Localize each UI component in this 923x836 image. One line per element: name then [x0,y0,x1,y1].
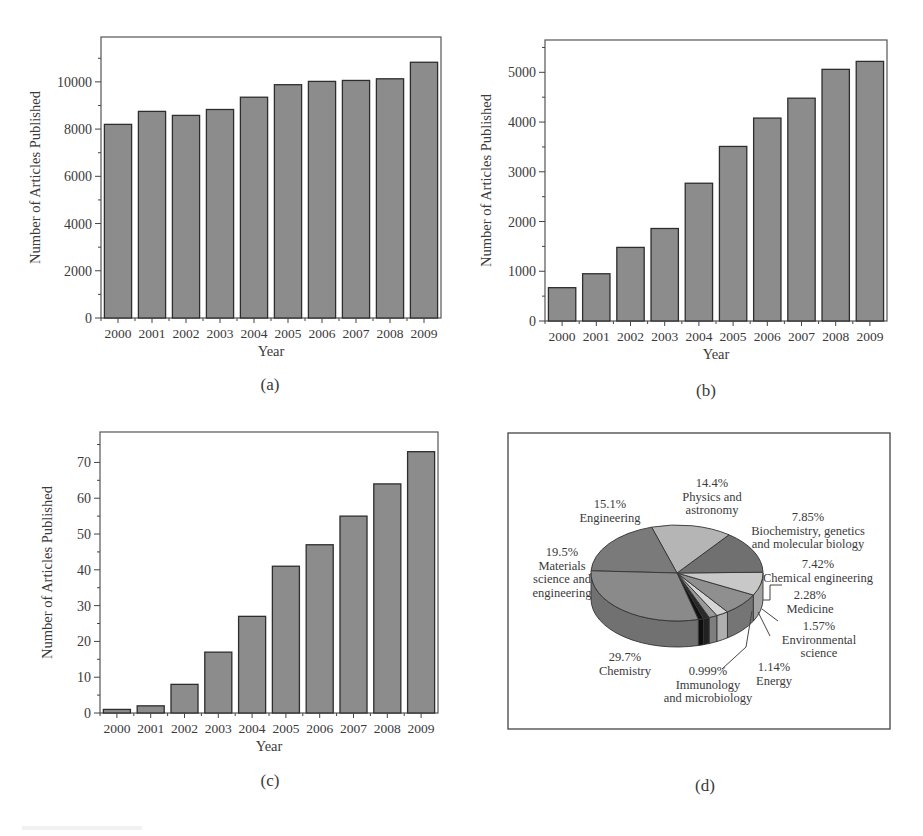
pie-side [704,617,710,644]
x-tick-label: 2001 [583,329,610,344]
y-tick-label: 5000 [508,65,536,80]
bar-2007 [342,80,369,318]
chart-b: 2000200120022003200420052006200720082009… [460,0,923,410]
x-tick-label: 2001 [139,326,166,341]
x-tick-label: 2005 [275,326,302,341]
y-tick-label: 0 [84,706,91,721]
bar-2005 [272,566,299,713]
pie-annotation: 19.5%Materialsscience andengineering [532,545,592,600]
bar-2002 [171,684,198,713]
caption-c: (c) [250,771,290,791]
x-tick-label: 2004 [241,326,268,341]
bar-2003 [205,652,232,713]
leader-line [762,609,778,621]
pie-annotation: 7.85%Biochemistry, geneticsand molecular… [751,510,865,551]
y-tick-label: 20 [77,634,91,649]
bar-2006 [754,118,781,321]
chart-c: 2000200120022003200420052006200720082009… [0,410,460,790]
bar-2001 [137,706,164,713]
figure-caption-cutoff [22,826,142,830]
x-tick-label: 2004 [239,721,266,736]
bar-2001 [583,274,610,321]
x-tick-label: 2003 [207,326,234,341]
y-tick-label: 4000 [64,217,92,232]
x-tick-label: 2008 [374,721,401,736]
bar-chart-b: 2000200120022003200420052006200720082009… [460,0,923,410]
bar-2004 [239,616,266,713]
bar-2008 [822,69,849,321]
bar-2003 [651,228,678,321]
chart-d: 15.1%Engineering14.4%Physics andastronom… [500,425,900,745]
x-tick-label: 2007 [340,721,367,736]
bar-2000 [103,709,130,713]
x-tick-label: 2003 [651,329,678,344]
y-tick-label: 30 [77,599,91,614]
caption-a: (a) [250,375,290,395]
x-tick-label: 2008 [377,326,404,341]
y-tick-label: 50 [77,527,91,542]
pie-annotation: 1.14%Energy [756,660,793,688]
bar-2009 [410,62,437,318]
bar-2006 [308,81,335,318]
x-axis-label: Year [256,738,283,754]
bar-2009 [408,452,435,713]
pie-annotation: 7.42%Chemical engineering [763,557,874,585]
bar-2007 [788,98,815,321]
x-tick-label: 2006 [754,329,781,344]
pie-annotation: 0.999%Immunologyand microbiology [664,664,753,705]
x-tick-label: 2000 [549,329,576,344]
bar-2009 [856,61,883,321]
y-tick-label: 0 [85,311,92,326]
x-tick-label: 2007 [788,329,815,344]
bar-2004 [685,183,712,321]
x-tick-label: 2006 [306,721,333,736]
y-tick-label: 4000 [508,115,536,130]
x-tick-label: 2005 [720,329,747,344]
bar-2002 [617,247,644,321]
pie-chart-d: 15.1%Engineering14.4%Physics andastronom… [500,425,900,745]
bar-2002 [172,115,199,318]
x-tick-label: 2009 [408,721,435,736]
bar-chart-a: 2000200120022003200420052006200720082009… [0,0,460,410]
y-tick-label: 10 [77,670,91,685]
y-axis-label: Number of Articles Published [27,90,43,264]
pie-annotation: 29.7%Chemistry [599,650,652,678]
y-tick-label: 6000 [64,169,92,184]
y-tick-label: 8000 [64,122,92,137]
x-tick-label: 2009 [856,329,883,344]
x-axis-label: Year [703,346,730,362]
leader-line [758,612,770,636]
x-tick-label: 2002 [173,326,200,341]
pie-side [709,615,717,643]
bar-2006 [306,545,333,713]
pie-side [698,619,703,646]
x-tick-label: 2009 [411,326,438,341]
x-tick-label: 2005 [272,721,299,736]
caption-b: (b) [686,381,726,401]
bar-2008 [376,79,403,318]
x-tick-label: 2002 [617,329,644,344]
y-tick-label: 0 [529,314,536,329]
y-tick-label: 1000 [508,264,536,279]
y-axis-label: Number of Articles Published [39,485,55,659]
y-tick-label: 2000 [64,264,92,279]
bar-2008 [374,484,401,713]
x-tick-label: 2004 [685,329,712,344]
chart-a: 2000200120022003200420052006200720082009… [0,0,460,410]
y-tick-label: 70 [77,455,91,470]
bar-2000 [104,124,131,318]
y-tick-label: 10000 [57,75,92,90]
x-tick-label: 2000 [103,721,130,736]
pie-annotation: 14.4%Physics andastronomy [682,476,742,517]
x-tick-label: 2007 [343,326,370,341]
y-tick-label: 3000 [508,165,536,180]
bar-chart-c: 2000200120022003200420052006200720082009… [0,410,460,790]
bar-2000 [548,288,575,321]
pie-annotation: 1.57%Environmentalscience [782,619,857,660]
bar-2007 [340,516,367,713]
x-tick-label: 2000 [105,326,132,341]
x-axis-label: Year [258,343,285,359]
y-tick-label: 40 [77,563,91,578]
y-axis-label: Number of Articles Published [478,93,494,267]
pie-annotation: 2.28%Medicine [786,588,834,616]
